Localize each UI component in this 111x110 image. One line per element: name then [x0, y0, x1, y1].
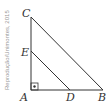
label-A: A: [19, 91, 28, 104]
segment-CB: [31, 17, 103, 90]
label-C: C: [22, 7, 31, 20]
diagram-canvas: Reprodução/Unimontes, 2015 C E A D B: [0, 0, 111, 110]
right-angle-dot: [33, 85, 35, 87]
label-D: D: [65, 91, 75, 104]
triangle-diagram: Reprodução/Unimontes, 2015 C E A D B: [0, 0, 111, 110]
label-E: E: [20, 46, 29, 59]
credit-text: Reprodução/Unimontes, 2015: [4, 10, 10, 90]
segment-ED: [31, 51, 70, 90]
label-B: B: [97, 91, 106, 104]
